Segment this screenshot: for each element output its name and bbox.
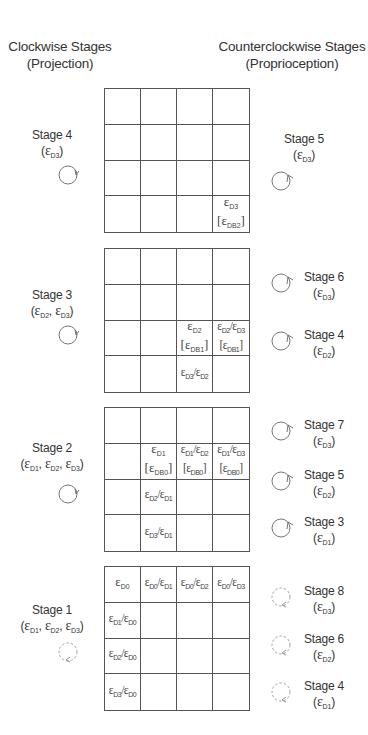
grid-cell: εD1/εD0 [105, 603, 141, 639]
clockwise-arrow-icon [57, 482, 81, 506]
stage-name: Stage 3 [0, 288, 104, 303]
stage-params: (εD1, εD2, εD3) [0, 618, 104, 638]
counterclockwise-arrow-icon [270, 329, 294, 353]
grid-cell [213, 639, 249, 675]
stage-params: (εD3) [278, 147, 330, 167]
grid-cell [177, 161, 213, 197]
grid-cell [177, 603, 213, 639]
stage-name: Stage 1 [0, 603, 104, 618]
stage-params: (εD1, εD2, εD3) [0, 456, 104, 476]
counterclockwise-subtitle: (Proprioception) [216, 55, 368, 72]
stage-params: (εD2) [298, 483, 350, 503]
grid-cell [213, 249, 249, 285]
stage-params: (εD2) [298, 343, 350, 363]
dashed-clockwise-arrow-icon [57, 640, 81, 664]
grid-cell [213, 125, 249, 161]
clockwise-arrow-icon [57, 323, 81, 347]
stage-params: (εD3) [298, 433, 350, 453]
grid-cell: εD0/εD3 [213, 567, 249, 603]
grid-cell: εD2/εD0 [105, 639, 141, 675]
stage-name: Stage 3 [298, 515, 350, 530]
stage-name: Stage 8 [298, 584, 350, 599]
grid-cell: εD1/εD2[εDB0] [177, 444, 213, 480]
grid-cell [105, 444, 141, 480]
stage-name: Stage 4 [298, 328, 350, 343]
grid-cell [177, 480, 213, 516]
counterclockwise-header: Counterclockwise Stages (Proprioception) [216, 38, 368, 72]
grid-cell: εD0/εD2 [177, 567, 213, 603]
grid-1: εD3[εDB2] [104, 88, 250, 233]
grid-cell [213, 285, 249, 321]
counterclockwise-stage-label: Stage 8 (εD3) [298, 584, 350, 619]
stage-name: Stage 6 [298, 270, 350, 285]
counterclockwise-arrow-icon [270, 516, 294, 540]
clockwise-stage-label: Stage 2 (εD1, εD2, εD3) [0, 441, 104, 476]
stage-params: (εD1) [298, 694, 350, 714]
grid-cell [105, 321, 141, 357]
grid-cell [177, 674, 213, 710]
grid-cell [177, 285, 213, 321]
grid-cell [141, 603, 177, 639]
grid-cell [213, 161, 249, 197]
stage-name: Stage 4 [298, 679, 350, 694]
dashed-counterclockwise-arrow-icon [270, 585, 294, 609]
grid-cell: εD2[εDB1] [177, 321, 213, 357]
grid-cell [213, 603, 249, 639]
grid-cell [105, 161, 141, 197]
grid-cell [177, 249, 213, 285]
grid-cell [141, 89, 177, 125]
grid-cell: εD3[εDB2] [213, 196, 249, 232]
grid-cell [141, 249, 177, 285]
counterclockwise-stage-label: Stage 4 (εD1) [298, 679, 350, 714]
counterclockwise-arrow-icon [270, 419, 294, 443]
grid-cell [213, 356, 249, 392]
grid-cell [213, 408, 249, 444]
grid-cell [213, 480, 249, 516]
stage-name: Stage 6 [298, 632, 350, 647]
grid-cell [141, 161, 177, 197]
grid-cell [105, 356, 141, 392]
grid-cell [105, 196, 141, 232]
counterclockwise-arrow-icon [270, 271, 294, 295]
grid-cell [141, 408, 177, 444]
grid-cell [105, 89, 141, 125]
grid-4: εD0εD0/εD1εD0/εD2εD0/εD3εD1/εD0εD2/εD0εD… [104, 566, 250, 711]
grid-cell [177, 196, 213, 232]
grid-cell [213, 674, 249, 710]
stage-params: (εD2) [298, 647, 350, 667]
counterclockwise-arrow-icon [270, 469, 294, 493]
grid-cell [141, 125, 177, 161]
grid-cell [105, 125, 141, 161]
stage-name: Stage 2 [0, 441, 104, 456]
grid-cell [105, 515, 141, 551]
dashed-counterclockwise-arrow-icon [270, 680, 294, 704]
grid-cell [105, 408, 141, 444]
clockwise-title: Clockwise Stages [4, 38, 116, 55]
dashed-counterclockwise-arrow-icon [270, 633, 294, 657]
stage-params: (εD2, εD3) [0, 303, 104, 323]
grid-2: εD2[εDB1]εD2/εD3[εDB1]εD3/εD2 [104, 248, 250, 393]
counterclockwise-stage-label: Stage 3 (εD1) [298, 515, 350, 550]
grid-cell [177, 125, 213, 161]
grid-cell [105, 480, 141, 516]
grid-cell: εD3/εD1 [141, 515, 177, 551]
grid-cell: εD1/εD3[εDB0] [213, 444, 249, 480]
grid-cell [105, 249, 141, 285]
grid-cell [141, 196, 177, 232]
grid-cell [213, 515, 249, 551]
clockwise-subtitle: (Projection) [4, 55, 116, 72]
clockwise-header: Clockwise Stages (Projection) [4, 38, 116, 72]
counterclockwise-stage-label: Stage 5 (εD3) [278, 132, 330, 167]
grid-cell [141, 674, 177, 710]
grid-cell: εD3/εD0 [105, 674, 141, 710]
clockwise-stage-label: Stage 1 (εD1, εD2, εD3) [0, 603, 104, 638]
grid-cell [141, 321, 177, 357]
clockwise-arrow-icon [57, 163, 81, 187]
clockwise-stage-label: Stage 3 (εD2, εD3) [0, 288, 104, 323]
grid-cell: εD0/εD1 [141, 567, 177, 603]
clockwise-stage-label: Stage 4 (εD3) [0, 128, 104, 163]
counterclockwise-stage-label: Stage 6 (εD3) [298, 270, 350, 305]
grid-cell [141, 639, 177, 675]
grid-cell: εD3/εD2 [177, 356, 213, 392]
grid-cell [213, 89, 249, 125]
